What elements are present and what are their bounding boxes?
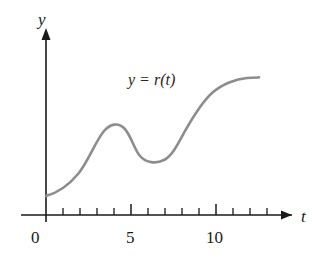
function-curve [46,77,259,196]
x-axis-arrow-icon [281,211,292,220]
x-tick-label-0: 0 [31,228,40,247]
y-axis-arrow-icon [42,28,51,40]
x-axis-major-ticks [131,204,216,215]
curve-annotation-label: y = r(t) [126,71,175,89]
x-tick-label-10: 10 [206,228,223,247]
x-tick-label-5: 5 [126,228,135,247]
y-axis-label: y [36,10,46,29]
figure-container: y t 0 5 10 y = r(t) [0,0,327,267]
x-axis-minor-ticks [63,208,267,215]
graph-plot: y t 0 5 10 y = r(t) [0,0,327,267]
x-axis-label: t [301,207,307,226]
